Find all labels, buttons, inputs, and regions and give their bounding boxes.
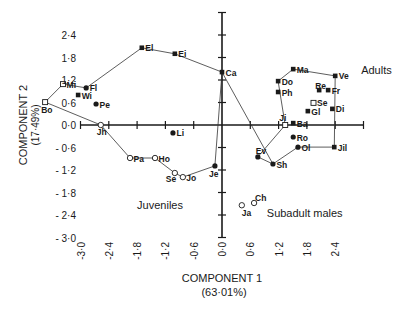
point-label: Ba — [297, 119, 308, 129]
filled-square-marker — [330, 107, 335, 112]
point-label: Gl — [311, 107, 320, 117]
filled-circle-marker — [212, 163, 217, 168]
filled-square-marker — [76, 93, 81, 98]
point-label: Ma — [297, 65, 309, 75]
data-point: Pe — [93, 100, 110, 110]
data-points: BoMiFlWiPeElEiCaJhLiPaHoSeJoJeMaVeDoPhRe… — [41, 43, 349, 218]
y-tick-label: - 1·8 — [55, 188, 76, 199]
filled-circle-marker — [291, 134, 296, 139]
filled-square-marker — [220, 70, 225, 75]
x-axis-subtitle: (63·01%) — [201, 286, 246, 298]
filled-square-marker — [291, 67, 296, 72]
point-label: El — [145, 43, 153, 53]
open-square-marker — [311, 100, 316, 105]
point-label: Do — [282, 77, 293, 87]
data-point: Li — [170, 128, 184, 138]
x-tick-label: 0·6 — [245, 242, 256, 257]
axes — [81, 13, 364, 238]
data-point: Fr — [326, 86, 341, 96]
point-label: Sh — [276, 160, 287, 170]
point-label: Ch — [255, 193, 266, 203]
open-square-marker — [283, 123, 288, 128]
filled-square-marker — [333, 74, 338, 79]
data-point: Di — [330, 104, 344, 114]
data-point: Ch — [251, 193, 266, 206]
y-axis-title: COMPONENT 2 — [17, 85, 29, 165]
point-label: Di — [336, 104, 345, 114]
data-point: Pa — [127, 154, 144, 164]
x-tick-label: 1·2 — [274, 242, 285, 257]
point-label: Jil — [338, 143, 347, 153]
y-axis-subtitle: (17·49%) — [30, 104, 41, 145]
filled-square-marker — [291, 121, 296, 126]
data-point: Re — [315, 81, 326, 92]
x-tick-label: -1·8 — [132, 242, 143, 260]
point-label: Jh — [97, 127, 107, 137]
y-tick-label: - 2·4 — [55, 210, 76, 221]
x-tick-label: -2·4 — [104, 242, 115, 260]
data-point: Ma — [291, 65, 309, 75]
y-tick-label: 0·6 — [62, 98, 77, 109]
point-label: Ca — [226, 68, 237, 78]
point-label: Ve — [339, 71, 349, 81]
data-point: Ho — [152, 154, 170, 164]
point-label: Ja — [242, 208, 252, 218]
filled-circle-marker — [93, 101, 98, 106]
data-point: Ph — [276, 88, 293, 98]
data-point: Ba — [291, 119, 308, 129]
point-label: Wi — [82, 91, 92, 101]
x-tick-label: -3·0 — [76, 242, 87, 260]
filled-square-marker — [173, 51, 178, 56]
data-point: Jo — [180, 173, 196, 183]
data-point: El — [140, 43, 154, 53]
group-label: Subadult males — [267, 207, 343, 219]
filled-circle-marker — [295, 145, 300, 150]
point-label: Bo — [41, 105, 52, 115]
data-point: Ol — [295, 143, 310, 153]
filled-square-marker — [326, 88, 331, 93]
point-label: Ho — [159, 154, 170, 164]
data-point: Ro — [291, 133, 308, 143]
point-label: Jo — [186, 173, 196, 183]
data-point: Se — [166, 170, 178, 184]
point-label: Ro — [297, 133, 308, 143]
filled-square-marker — [276, 90, 281, 95]
y-tick-label: 1·2 — [62, 75, 77, 86]
data-point: Ja — [239, 203, 251, 219]
filled-square-marker — [332, 145, 337, 150]
filled-square-marker — [140, 45, 145, 50]
point-label: Li — [176, 128, 184, 138]
filled-square-marker — [276, 79, 281, 84]
open-circle-marker — [180, 174, 185, 179]
data-point: Wi — [76, 91, 92, 101]
data-point: Gl — [306, 107, 321, 117]
point-label: Ei — [178, 49, 186, 59]
data-point: Ev — [255, 146, 266, 160]
y-tick-label: 1·8 — [62, 53, 77, 64]
filled-circle-marker — [170, 130, 175, 135]
x-axis-title: COMPONENT 1 — [182, 272, 262, 284]
data-point: Ei — [173, 49, 187, 59]
point-label: Se — [166, 174, 177, 184]
y-tick-label: - 1·2 — [55, 165, 76, 176]
group-label: Adults — [361, 64, 392, 76]
x-tick-label: -0·6 — [189, 242, 200, 260]
point-label: Re — [315, 81, 326, 91]
data-point: Bo — [41, 100, 52, 116]
y-tick-label: 0·0 — [62, 120, 77, 131]
point-label: Pe — [100, 100, 111, 110]
y-tick-label: - 0·6 — [55, 143, 76, 154]
point-label: Ji — [279, 113, 286, 123]
x-tick-label: 1·8 — [302, 242, 313, 257]
y-tick-label: 2·4 — [62, 30, 77, 41]
point-label: Pa — [134, 154, 145, 164]
data-point: Sh — [270, 160, 287, 170]
point-label: Je — [209, 169, 219, 179]
pca-scatter-chart: BoMiFlWiPeElEiCaJhLiPaHoSeJoJeMaVeDoPhRe… — [0, 0, 414, 311]
x-tick-label: 2·4 — [330, 242, 341, 257]
filled-circle-marker — [270, 161, 275, 166]
point-label: Fr — [332, 86, 341, 96]
open-circle-marker — [152, 155, 157, 160]
point-label: Ev — [256, 146, 267, 156]
group-label: Juveniles — [137, 199, 183, 211]
